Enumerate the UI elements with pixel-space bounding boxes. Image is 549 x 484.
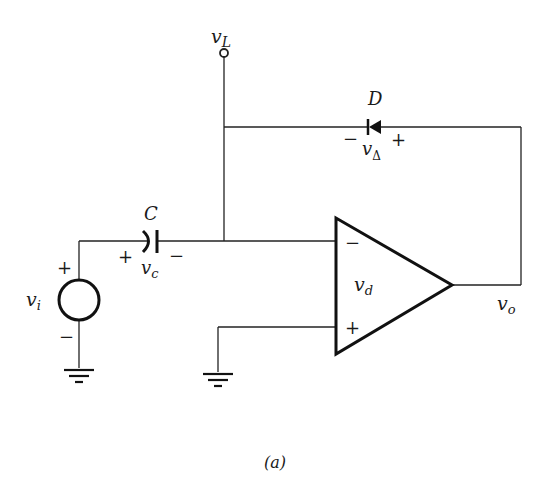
load-terminal-node (220, 49, 228, 57)
capacitor-voltage-label: vc (141, 257, 159, 281)
capacitor-plus-sign: + (118, 246, 133, 267)
opamp-differential-label: vd (354, 273, 373, 298)
capacitor-name-label: C (144, 203, 158, 224)
opamp-noninverting-sign: + (345, 317, 360, 338)
capacitor-minus-sign: − (169, 245, 184, 266)
diode-plus-sign: + (391, 129, 406, 150)
diode-voltage-label: vΔ (362, 138, 381, 163)
ground-icon (203, 374, 233, 386)
opamp-inverting-sign: − (345, 232, 360, 253)
output-label: vo (497, 292, 516, 317)
diode-name-label: D (367, 88, 383, 109)
diode-minus-sign: − (343, 128, 358, 149)
source-label: vi (26, 288, 41, 313)
noninverting-wire (218, 327, 336, 372)
circuit-diagram: vL D − + vΔ C + − vc + − vi − + vd vo (a… (0, 0, 549, 484)
figure-caption: (a) (264, 453, 286, 472)
diode-triangle-icon (369, 120, 381, 134)
load-terminal-label: vL (211, 25, 231, 50)
voltage-source-icon (59, 280, 99, 320)
source-minus-sign: − (59, 326, 74, 347)
source-plus-sign: + (57, 257, 72, 278)
ground-icon (64, 370, 94, 382)
diode-D (368, 119, 381, 135)
